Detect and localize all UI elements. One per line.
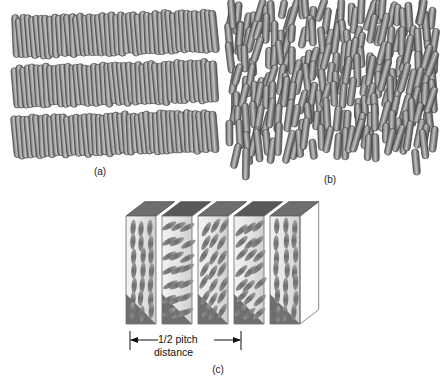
liquid-crystal-figure: (a) (b): [0, 0, 445, 383]
panel-c-label: (c): [198, 364, 238, 375]
panel-b-nematic: [226, 4, 438, 170]
panel-b-graphic: [226, 4, 438, 170]
cholesteric-slab-group: [126, 202, 319, 324]
half-pitch-label-line2: distance: [154, 346, 193, 358]
panel-a-smectic: [10, 6, 225, 166]
panel-c-graphic: [118, 186, 318, 336]
panel-b-label: (b): [310, 174, 350, 185]
smectic-layer-group: [10, 9, 219, 160]
nematic-rod-group: [224, 0, 440, 180]
panel-c-cholesteric: [118, 186, 318, 336]
half-pitch-label-line1: 1/2 pitch: [158, 333, 198, 345]
panel-a-graphic: [10, 6, 225, 166]
panel-a-label: (a): [80, 166, 120, 177]
